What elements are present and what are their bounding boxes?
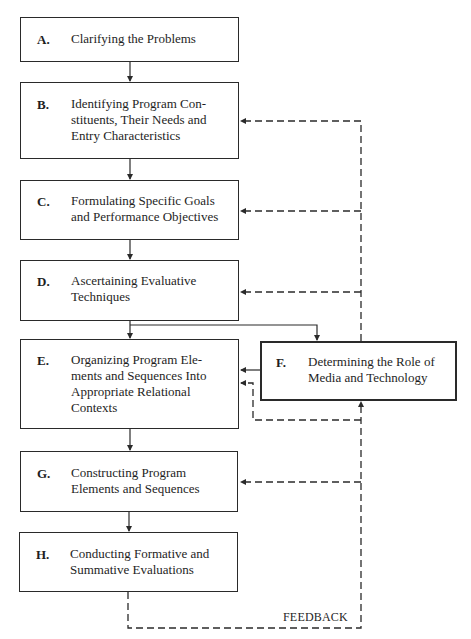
step-h-letter: H. xyxy=(36,547,49,563)
step-d-box: D. Ascertaining Evaluative Techniques xyxy=(20,260,239,321)
step-g-letter: G. xyxy=(37,466,50,482)
step-g-box: G. Constructing Program Elements and Seq… xyxy=(20,451,238,512)
step-f-box: F. Determining the Role of Media and Tec… xyxy=(260,341,457,401)
step-f-letter: F. xyxy=(276,355,286,371)
step-c-box: C. Formulating Specific Goals and Perfor… xyxy=(20,180,239,240)
step-e-box: E. Organizing Program Ele- ments and Seq… xyxy=(20,339,239,429)
feedback-line-main xyxy=(128,402,361,628)
step-c-label: Formulating Specific Goals and Performan… xyxy=(71,193,218,225)
step-d-label: Ascertaining Evaluative Techniques xyxy=(71,273,196,305)
step-e-letter: E. xyxy=(37,353,49,369)
step-h-label: Conducting Formative and Summative Evalu… xyxy=(70,546,209,578)
step-c-letter: C. xyxy=(37,194,50,210)
step-b-letter: B. xyxy=(37,97,49,113)
step-f-label: Determining the Role of Media and Techno… xyxy=(308,354,435,386)
step-d-letter: D. xyxy=(37,274,50,290)
arrow-d-to-f xyxy=(130,325,317,340)
step-b-label: Identifying Program Con- stituents, Thei… xyxy=(71,96,207,144)
step-a-label: Clarifying the Problems xyxy=(71,31,196,47)
step-h-box: H. Conducting Formative and Summative Ev… xyxy=(19,532,238,592)
step-b-box: B. Identifying Program Con- stituents, T… xyxy=(20,82,239,159)
feedback-label: FEEDBACK xyxy=(283,610,348,625)
step-g-label: Constructing Program Elements and Sequen… xyxy=(71,465,200,497)
step-a-letter: A. xyxy=(37,32,50,48)
step-e-label: Organizing Program Ele- ments and Sequen… xyxy=(71,352,206,416)
step-a-box: A. Clarifying the Problems xyxy=(20,17,239,62)
